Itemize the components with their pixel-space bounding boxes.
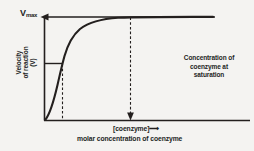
vmax-subscript-text: max <box>26 12 37 18</box>
y-axis-label-line2: of reaction <box>22 31 29 95</box>
saturation-annotation: Concentration of coenzyme at saturation <box>167 54 251 80</box>
saturation-annotation-line2: coenzyme at <box>167 63 251 70</box>
saturation-annotation-line1: Concentration of <box>167 54 251 61</box>
saturation-arrow-icon <box>127 113 134 121</box>
x-axis-symbol-label: [coenzyme]⟶ <box>113 125 159 132</box>
y-axis-label: Velocity of reaction (V) <box>15 31 36 95</box>
y-axis-label-line1: Velocity <box>15 31 22 95</box>
y-axis-label-line3: (V) <box>30 31 37 95</box>
vmax-axis-label: Vmax <box>20 9 37 19</box>
saturation-annotation-line3: saturation <box>167 71 251 78</box>
x-axis-symbol-text: [coenzyme] <box>113 125 149 132</box>
x-axis-description-label: molar concentration of coenzyme <box>77 135 182 142</box>
x-axis-arrow-icon: ⟶ <box>149 125 159 132</box>
saturation-curve-figure: Vmax Velocity of reaction (V) Concentrat… <box>0 0 254 151</box>
